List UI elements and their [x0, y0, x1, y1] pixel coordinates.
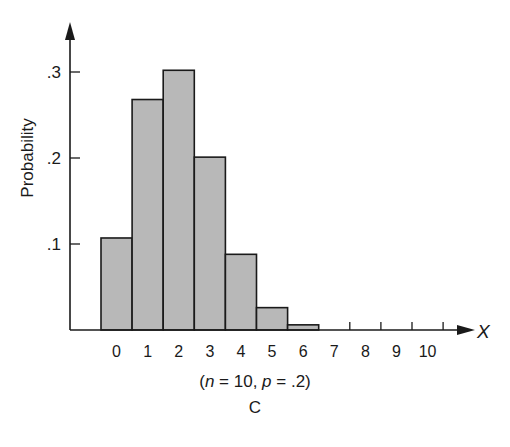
y-axis-label: Probability — [18, 118, 37, 198]
bar-x-0 — [101, 238, 132, 330]
x-tick-label: 10 — [419, 343, 437, 360]
x-tick-label: 3 — [205, 343, 214, 360]
x-tick-label: 5 — [268, 343, 277, 360]
x-tick-label: 9 — [392, 343, 401, 360]
y-tick-label: .1 — [47, 235, 61, 254]
p-variable: p — [262, 372, 271, 391]
x-tick-label: 8 — [361, 343, 370, 360]
bar-x-5 — [257, 308, 288, 330]
distribution-parameters: (n = 10, p = .2) — [0, 372, 510, 392]
x-tick-label: 7 — [330, 343, 339, 360]
y-tick-label: .3 — [47, 63, 61, 82]
x-tick-label: 6 — [299, 343, 308, 360]
y-axis-arrow-icon — [65, 22, 75, 40]
panel-label: C — [0, 398, 510, 418]
x-tick-label: 1 — [143, 343, 152, 360]
x-tick-label: 0 — [112, 343, 121, 360]
x-axis-label: X — [476, 321, 491, 342]
n-variable: n — [205, 372, 214, 391]
x-tick-labels: 012345678910 — [112, 343, 436, 360]
bars — [101, 70, 319, 330]
y-ticks: .1.2.3 — [47, 63, 80, 254]
y-tick-label: .2 — [47, 149, 61, 168]
bar-x-4 — [225, 254, 256, 330]
x-tick-label: 4 — [236, 343, 245, 360]
bar-x-1 — [132, 100, 163, 330]
x-axis-arrow-icon — [457, 325, 475, 335]
x-tick-label: 2 — [174, 343, 183, 360]
bar-x-3 — [194, 157, 225, 330]
x-ticks — [350, 322, 443, 330]
bar-x-2 — [163, 70, 194, 330]
